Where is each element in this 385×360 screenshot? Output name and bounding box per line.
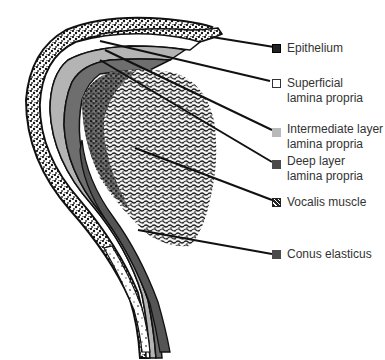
legend-text-line2: lamina propria xyxy=(287,169,363,184)
legend-label: Epithelium xyxy=(287,41,343,56)
legend-label: Conus elasticus xyxy=(287,247,372,262)
legend-item-conus: Conus elasticus xyxy=(272,247,372,262)
legend-text-line1: Conus elasticus xyxy=(287,247,372,262)
epithelium-swatch-icon xyxy=(272,44,281,53)
leader-epithelium xyxy=(212,37,274,47)
vocalis-swatch-icon xyxy=(272,198,281,207)
legend-text-line2: lamina propria xyxy=(287,91,363,106)
legend-item-intermediate: Intermediate layer lamina propria xyxy=(272,122,383,152)
legend-label: Deep layer lamina propria xyxy=(287,154,363,184)
legend-label: Superficial lamina propria xyxy=(287,76,363,106)
legend-item-epithelium: Epithelium xyxy=(272,41,343,56)
conus-swatch-icon xyxy=(272,250,281,259)
legend-text-line1: Superficial xyxy=(287,76,363,91)
legend-text-line1: Intermediate layer xyxy=(287,122,383,137)
legend-text-line1: Vocalis muscle xyxy=(287,195,366,210)
legend-item-superficial: Superficial lamina propria xyxy=(272,76,363,106)
superficial-swatch-icon xyxy=(272,79,281,88)
legend-label: Intermediate layer lamina propria xyxy=(287,122,383,152)
legend-text-line1: Epithelium xyxy=(287,41,343,56)
legend-item-vocalis: Vocalis muscle xyxy=(272,195,366,210)
intermediate-swatch-icon xyxy=(272,128,281,137)
legend-label: Vocalis muscle xyxy=(287,195,366,210)
leader-conus xyxy=(138,230,272,254)
legend-text-line1: Deep layer xyxy=(287,154,363,169)
legend-item-deep: Deep layer lamina propria xyxy=(272,154,363,184)
legend-text-line2: lamina propria xyxy=(287,137,383,152)
deep-swatch-icon xyxy=(272,160,281,169)
